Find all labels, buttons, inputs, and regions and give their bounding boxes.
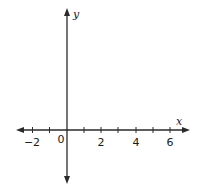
y-axis-label: y bbox=[72, 8, 80, 21]
x-tick-label: 4 bbox=[133, 136, 140, 149]
x-axis-label: x bbox=[176, 115, 183, 128]
y-axis-down-arrow-icon bbox=[64, 176, 70, 184]
x-tick-label: −2 bbox=[24, 136, 40, 149]
y-axis-up-arrow-icon bbox=[64, 8, 70, 16]
coordinate-plane: −2 0 2 4 6 y x bbox=[0, 0, 197, 186]
x-tick-label: 6 bbox=[167, 136, 174, 149]
x-axis bbox=[16, 127, 190, 133]
y-axis bbox=[64, 8, 70, 184]
x-tick-label: 2 bbox=[98, 136, 105, 149]
x-axis-left-arrow-icon bbox=[16, 127, 24, 133]
origin-label: 0 bbox=[58, 133, 65, 146]
x-axis-right-arrow-icon bbox=[182, 127, 190, 133]
